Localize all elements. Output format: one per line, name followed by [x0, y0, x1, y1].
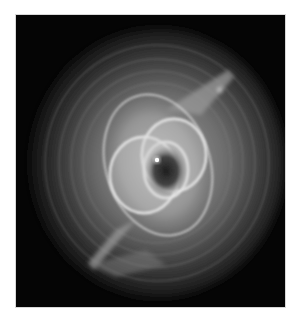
nebula-illustration — [16, 15, 285, 307]
dark-core — [146, 147, 186, 195]
nebula-photo — [16, 15, 285, 307]
